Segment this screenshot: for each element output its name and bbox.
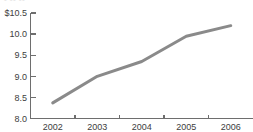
y-axis-tick-marks — [31, 13, 36, 97]
x-tick-label: 2002 — [43, 122, 63, 132]
x-axis-tick-labels: 20022003200420052006 — [43, 122, 241, 132]
data-series-line — [53, 26, 231, 103]
x-tick-label: 2004 — [132, 122, 152, 132]
y-tick-label: 8.0 — [14, 114, 27, 124]
y-tick-label: 10.0 — [9, 29, 27, 39]
clipped-title-fragment: • •• •• — [4, 0, 25, 4]
y-tick-label: $10.5 — [4, 8, 27, 18]
y-axis-tick-labels: 8.08.59.09.510.0$10.5 — [4, 8, 27, 124]
x-tick-label: 2005 — [176, 122, 196, 132]
line-chart: • •• •• 8.08.59.09.510.0$10.5 2002200320… — [0, 0, 253, 132]
x-tick-label: 2003 — [87, 122, 107, 132]
y-tick-label: 8.5 — [14, 93, 27, 103]
y-tick-label: 9.5 — [14, 50, 27, 60]
x-tick-label: 2006 — [221, 122, 241, 132]
chart-canvas: 8.08.59.09.510.0$10.5 200220032004200520… — [0, 0, 253, 132]
y-tick-label: 9.0 — [14, 72, 27, 82]
